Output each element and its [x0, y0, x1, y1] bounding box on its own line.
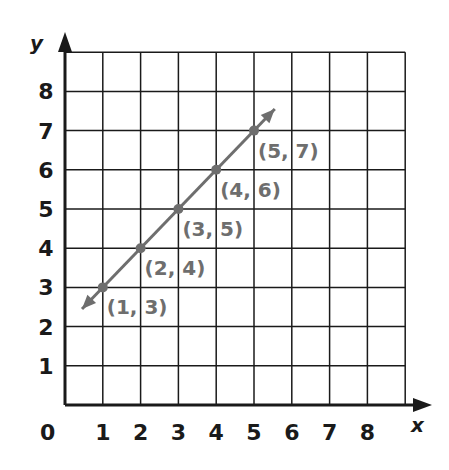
- x-tick-label: 6: [284, 420, 299, 445]
- x-tick-label: 5: [246, 420, 261, 445]
- coordinate-grid-chart: 1234567812345678 (1, 3)(2, 4)(3, 5)(4, 6…: [0, 0, 449, 470]
- y-tick-label: 2: [38, 315, 53, 340]
- x-axis-label: x: [410, 413, 425, 437]
- x-tick-label: 7: [322, 420, 337, 445]
- data-point: [98, 282, 108, 292]
- x-tick-label: 3: [171, 420, 186, 445]
- x-tick-label: 1: [95, 420, 110, 445]
- x-tick-label: 2: [133, 420, 148, 445]
- origin-label: 0: [40, 420, 55, 445]
- data-point-label: (4, 6): [220, 178, 281, 202]
- x-axis-arrow-icon: [413, 398, 432, 412]
- data-point: [211, 165, 221, 175]
- y-tick-label: 3: [38, 275, 53, 300]
- y-tick-label: 8: [38, 79, 53, 104]
- data-point: [249, 126, 259, 136]
- y-tick-label: 5: [38, 197, 53, 222]
- data-point: [136, 243, 146, 253]
- data-point-label: (5, 7): [258, 139, 319, 163]
- tick-labels: 1234567812345678: [38, 79, 375, 445]
- data-point-label: (3, 5): [182, 217, 243, 241]
- data-point-label: (1, 3): [107, 295, 168, 319]
- x-tick-label: 4: [209, 420, 224, 445]
- y-axis-label: y: [30, 31, 44, 55]
- data-point-label: (2, 4): [145, 256, 206, 280]
- y-tick-label: 4: [38, 236, 53, 261]
- data-point: [173, 204, 183, 214]
- y-axis-arrow-icon: [58, 32, 72, 52]
- axes: [58, 32, 432, 412]
- y-tick-label: 6: [38, 158, 53, 183]
- y-tick-label: 7: [38, 119, 53, 144]
- y-tick-label: 1: [38, 354, 53, 379]
- x-tick-label: 8: [360, 420, 375, 445]
